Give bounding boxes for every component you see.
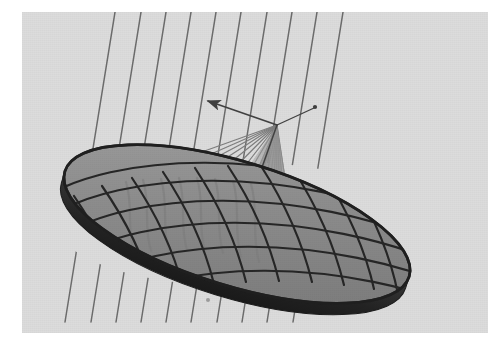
- dish-diagram-svg: [22, 12, 488, 333]
- parabolic-dish-scene: [22, 12, 488, 333]
- secondary-axis-endpoint: [313, 105, 317, 109]
- scan-speck: [206, 298, 210, 302]
- figure-root: Parabolic reflector antenna with incomin…: [0, 0, 488, 345]
